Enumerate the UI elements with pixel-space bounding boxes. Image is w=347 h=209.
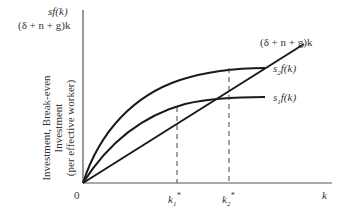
origin-label: 0 — [74, 190, 80, 201]
top-label-breakeven: (δ + n + g)k — [18, 20, 70, 31]
breakeven-line — [83, 44, 304, 183]
k2-star-label: k2* — [222, 190, 234, 209]
k1-star-sup: * — [176, 191, 180, 200]
breakeven-label: (δ + n + g)k — [260, 37, 312, 48]
k2-star-sup: * — [230, 191, 234, 200]
top-label-sfk: sf(k) — [48, 6, 68, 17]
k1-star-sub: 1 — [173, 200, 177, 208]
s1f-curve — [83, 97, 265, 183]
s2f-label: s2f(k) — [273, 63, 296, 79]
s2f-label-rest: f(k) — [281, 62, 296, 74]
y-axis-label-line-2: Investment — [52, 38, 64, 209]
y-axis-label-line-1: Investment, Break-even — [40, 38, 52, 209]
k2-star-sub: 2 — [227, 200, 231, 208]
s1f-label: s1f(k) — [273, 92, 296, 108]
k1-star-label: k1* — [168, 190, 180, 209]
s1f-label-rest: f(k) — [281, 91, 296, 103]
y-axis-label-line-3: (per effective worker) — [64, 38, 76, 209]
y-axis-label: Investment, Break-even Investment (per e… — [40, 38, 76, 209]
k-axis-label: k — [322, 190, 327, 201]
